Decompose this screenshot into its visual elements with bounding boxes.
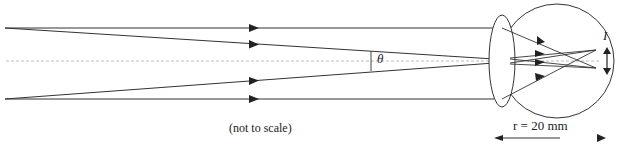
retinal-image-arrow (603, 47, 611, 75)
arrowhead-icon (249, 77, 259, 85)
refracted-rays (502, 28, 596, 99)
radius-arrow (494, 134, 606, 142)
arrowhead-icon (249, 95, 259, 103)
angle-theta-label: θ (377, 51, 383, 67)
arrowhead-icon (249, 40, 259, 49)
ray-bottom-slanted (5, 63, 494, 99)
ray-top-slanted (5, 28, 494, 59)
not-to-scale-note: (not to scale) (229, 121, 292, 136)
image-size-label: I (603, 28, 607, 44)
radius-label: r = 20 mm (513, 118, 568, 134)
arrowhead-icon (249, 24, 259, 32)
ray-bottom-horizontal (5, 95, 494, 103)
ray-top-horizontal (5, 24, 494, 32)
eye-lens (489, 15, 515, 107)
